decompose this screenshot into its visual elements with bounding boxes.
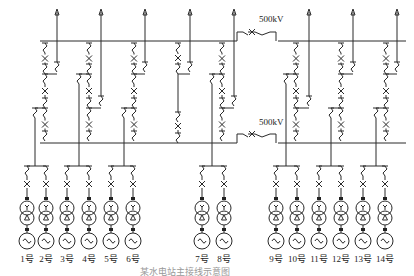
terminal-icon [317,197,321,200]
unit-label: 12号 [332,254,350,264]
delta-symbol [65,215,70,220]
disconnector-icon [361,166,365,176]
delta-symbol [200,215,205,220]
transformer-yd-icon [217,201,231,225]
transformer-yd-icon [334,201,348,225]
unit-11: 11号 [310,166,328,264]
disconnector-icon [294,64,298,74]
unit-label: 3号 [60,254,74,264]
delta-symbol [131,215,136,220]
terminal-icon [317,228,321,231]
transformer-winding-d [334,211,348,225]
breaker-x-icon [338,88,344,94]
terminal-icon [339,228,343,231]
transformer-winding-d [195,211,209,225]
disconnector-icon [339,108,343,118]
generator-icon [289,233,305,249]
terminal-icon [65,228,69,231]
transformer-winding-d [39,211,53,225]
breaker-x-icon [199,181,205,187]
unit-13: 13号 [354,166,372,264]
disconnector-icon [99,96,103,106]
disconnector-icon [220,43,224,53]
disconnector-icon [339,98,343,108]
terminal-icon [109,228,113,231]
breaker-x-icon [130,181,136,187]
disconnector-icon [122,108,126,118]
disconnector-icon [210,74,214,84]
generator-sine [337,239,345,243]
wye-symbol [44,205,48,210]
transformer-winding-d [104,211,118,225]
terminal-icon [87,197,91,200]
delta-symbol [222,215,227,220]
string-2 [76,9,104,160]
disconnector-icon [339,74,343,84]
terminal-icon [295,228,299,231]
breaker-x-icon [293,88,299,94]
transformer-winding-d [378,211,392,225]
voltage-label-top: 500kV [259,14,284,24]
generator-icon [103,233,119,249]
disconnector-icon [132,43,136,53]
unit-pair-11-12 [319,160,341,166]
disconnector-icon [294,131,298,141]
disconnector-icon [188,62,192,72]
generator-sine [220,239,228,243]
transformer-yd-icon [195,201,209,225]
disconnector-icon [43,131,47,141]
terminal-icon [222,197,226,200]
transformer-yd-icon [82,201,96,225]
disconnector-icon [232,96,236,106]
unit-3: 3号 [59,166,75,264]
transformer-yd-icon [290,201,304,225]
disconnector-icon [109,166,113,176]
wye-symbol [109,205,113,210]
delta-symbol [25,215,30,220]
disconnector-icon [87,74,91,84]
breaker-x-icon [86,88,92,94]
breaker-x-icon [382,181,388,187]
delta-symbol [383,215,388,220]
unit-10: 10号 [288,166,306,264]
terminal-icon [44,197,48,200]
breaker-x-icon [24,181,30,187]
breaker-x-icon [42,56,48,62]
unit-label: 11号 [310,254,328,264]
disconnector-icon [339,64,343,74]
breaker-x-icon [338,181,344,187]
generator-sine [85,239,93,243]
disconnector-icon [294,98,298,108]
generator-icon [268,233,284,249]
unit-6: 6号 [125,166,141,264]
coupler-wire [237,32,276,41]
unit-label: 5号 [104,254,118,264]
delta-symbol [317,215,322,220]
disconnector-icon [87,166,91,176]
disconnector-icon [351,62,355,72]
disconnector-icon [339,166,343,176]
transformer-winding-d [20,211,34,225]
terminal-icon [109,197,113,200]
disconnector-icon [274,166,278,176]
unit-12: 12号 [332,166,350,264]
breaker-x-icon [86,56,92,62]
unit-label: 2号 [39,254,53,264]
figure-caption: 某水电站主接线示意图 [140,266,230,276]
terminal-icon [295,197,299,200]
delta-symbol [44,215,49,220]
transformer-winding-d [269,211,283,225]
disconnector-icon [339,43,343,53]
unit-pair-5-6 [111,160,133,166]
breaker-x-icon [221,181,227,187]
main-wiring-diagram: 500kV 500kV 1号2号3号4号5号6号7号8号9号10号11号12号1… [0,0,414,276]
transformer-winding-d [312,211,326,225]
breaker-x-icon [338,122,344,128]
breaker-x-icon [293,122,299,128]
breaker-x-icon [219,88,225,94]
disconnector-icon [384,98,388,108]
voltage-label-bottom: 500kV [259,117,284,127]
unit-label: 9号 [269,254,283,264]
disconnector-icon [77,74,81,84]
generator-sine [42,239,50,243]
